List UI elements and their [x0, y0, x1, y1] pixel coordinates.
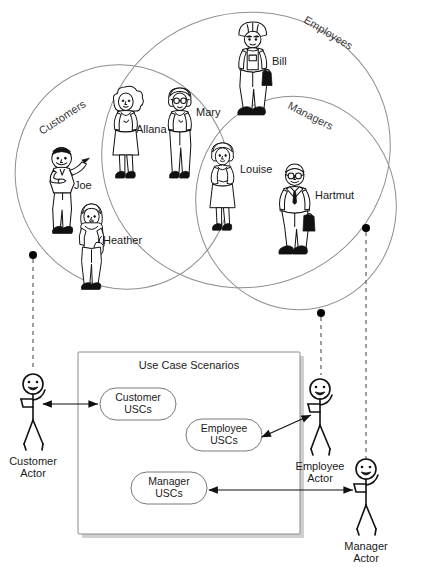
use-case-manager-uscs-line1: Manager	[148, 475, 190, 487]
person-figure-louise[interactable]	[210, 143, 235, 230]
person-figure-bill[interactable]	[238, 22, 272, 115]
actor-employee-actor-line2: Actor	[307, 472, 333, 484]
link-dot-managers[interactable]	[362, 224, 370, 232]
use-case-employee-uscs-line1: Employee	[201, 422, 248, 434]
person-label-allana: Allana	[136, 123, 167, 135]
venn-label-employees: Employees	[302, 13, 355, 52]
person-label-hartmut: Hartmut	[315, 189, 354, 201]
person-label-louise: Louise	[240, 163, 272, 175]
actor-customer-actor-line1: Customer	[9, 455, 57, 467]
venn-label-customers: Customers	[37, 97, 89, 136]
person-label-joe: Joe	[74, 179, 92, 191]
use-case-employee-uscs[interactable]: Employee USCs	[186, 419, 262, 451]
actor-manager-actor[interactable]: Manager Actor	[344, 459, 388, 564]
person-figure-hartmut[interactable]	[279, 164, 315, 254]
use-case-manager-uscs[interactable]: Manager USCs	[131, 472, 207, 504]
use-case-customer-uscs[interactable]: Customer USCs	[100, 388, 176, 420]
person-figure-mary[interactable]	[168, 88, 191, 178]
link-dot-employees[interactable]	[317, 309, 325, 317]
actor-employee-actor-line1: Employee	[296, 460, 345, 472]
actor-customer-actor[interactable]: Customer Actor	[9, 374, 57, 479]
use-case-customer-uscs-line1: Customer	[115, 391, 161, 403]
venn-label-managers: Managers	[286, 99, 335, 132]
use-case-employee-uscs-line2: USCs	[210, 434, 237, 446]
use-case-customer-uscs-line2: USCs	[124, 403, 151, 415]
person-label-heather: Heather	[103, 234, 142, 246]
use-case-scenarios-title: Use Case Scenarios	[139, 359, 240, 371]
diagram-canvas: Customers Employees Managers Joe	[0, 0, 433, 567]
use-case-manager-uscs-line2: USCs	[155, 487, 182, 499]
actor-customer-actor-line2: Actor	[20, 467, 46, 479]
actor-manager-actor-line1: Manager	[344, 540, 388, 552]
link-dot-customers[interactable]	[29, 251, 37, 259]
person-label-mary: Mary	[196, 106, 221, 118]
person-label-bill: Bill	[272, 55, 287, 67]
actor-manager-actor-line2: Actor	[353, 552, 379, 564]
person-figure-heather[interactable]	[79, 204, 104, 290]
